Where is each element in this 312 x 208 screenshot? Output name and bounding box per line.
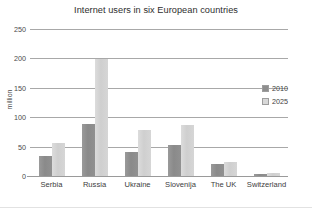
bar-2010-serbia [39,156,52,177]
chart-figure: Internet users in six European countries… [0,0,312,208]
bar-2010-russia [82,124,95,177]
bar-2025-ukraine [138,130,151,177]
legend-item-2025: 2025 [262,97,312,106]
x-tick-label-russia: Russia [73,180,116,189]
bar-2025-russia [95,59,108,177]
bar-group-slovenija [159,30,202,177]
y-tick-label-100: 100 [14,113,26,122]
legend-label-2010: 2010 [272,84,288,93]
x-tick-label-switzerland: Switzerland [245,180,288,189]
legend-label-2025: 2025 [272,97,288,106]
bar-group-the-uk [202,30,245,177]
legend-item-2010: 2010 [262,84,312,93]
x-axis-line [27,176,288,177]
x-tick-label-slovenija: Slovenija [159,180,202,189]
bar-2010-ukraine [125,152,138,177]
x-axis-tick-labels: SerbiaRussiaUkraineSlovenijaThe UKSwitze… [30,180,288,189]
plot-area: 050100150200250 [30,30,288,177]
legend-swatch-2025 [262,98,269,105]
chart-title: Internet users in six European countries [0,5,312,15]
y-tick-label-200: 200 [14,54,26,63]
y-tick-label-50: 50 [18,142,26,151]
bar-2025-slovenija [181,125,194,177]
x-tick-label-serbia: Serbia [30,180,73,189]
bar-2010-slovenija [168,145,181,177]
y-axis-label: million [6,80,13,120]
bar-group-serbia [30,30,73,177]
bottom-divider [0,207,312,208]
x-tick-label-ukraine: Ukraine [116,180,159,189]
y-tick-label-250: 250 [14,25,26,34]
y-tick-label-0: 0 [22,172,26,181]
legend-swatch-2010 [262,85,269,92]
x-tick-label-the-uk: The UK [202,180,245,189]
bar-group-russia [73,30,116,177]
bar-groups [30,30,288,177]
bar-2025-serbia [52,143,65,177]
bar-group-ukraine [116,30,159,177]
y-tick-label-150: 150 [14,83,26,92]
chart-legend: 20102025 [262,84,312,110]
